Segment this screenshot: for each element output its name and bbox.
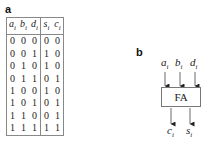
output-label-s: si [186, 124, 192, 139]
full-adder-diagram: ai bi di FA ci si [0, 0, 209, 148]
arrows [0, 0, 209, 148]
full-adder-block: FA [161, 87, 201, 107]
output-label-c: ci [167, 124, 174, 139]
